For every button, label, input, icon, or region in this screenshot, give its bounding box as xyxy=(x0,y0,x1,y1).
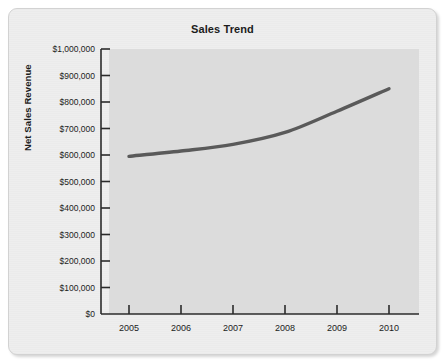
y-axis-tick-label: $300,000 xyxy=(60,230,96,240)
chart-card: Sales Trend Net Sales Revenue $1,000,000… xyxy=(8,8,437,355)
y-axis-tick-label: $100,000 xyxy=(60,283,96,293)
x-axis-tick-label: 2005 xyxy=(119,323,139,333)
y-axis-tick-label: $800,000 xyxy=(60,97,96,107)
y-axis-tick-label: $400,000 xyxy=(60,203,96,213)
line-chart-plot: $1,000,000$900,000$800,000$700,000$600,0… xyxy=(9,9,438,356)
x-axis-tick-label: 2007 xyxy=(223,323,243,333)
y-axis-tick-label: $500,000 xyxy=(60,177,96,187)
y-axis-tick-label: $700,000 xyxy=(60,124,96,134)
x-axis-tick-label: 2009 xyxy=(327,323,347,333)
y-axis-tick-label: $600,000 xyxy=(60,150,96,160)
y-axis-tick-label: $1,000,000 xyxy=(52,44,95,54)
x-axis-tick-label: 2008 xyxy=(275,323,295,333)
y-axis-tick-label: $0 xyxy=(86,309,96,319)
y-axis-tick-label: $200,000 xyxy=(60,256,96,266)
y-axis-tick-label: $900,000 xyxy=(60,71,96,81)
plot-area-background xyxy=(109,49,419,314)
x-axis-tick-label: 2010 xyxy=(379,323,399,333)
x-axis-tick-label: 2006 xyxy=(171,323,191,333)
